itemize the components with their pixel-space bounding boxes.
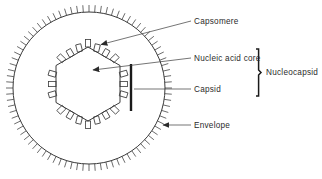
envelope-spike bbox=[145, 140, 150, 145]
envelope-spike bbox=[111, 9, 113, 16]
envelope-spike bbox=[65, 161, 67, 168]
envelope-spike bbox=[106, 162, 108, 169]
envelope-spike bbox=[122, 156, 125, 162]
envelope-spike bbox=[136, 23, 140, 28]
envelope-spike bbox=[117, 11, 120, 18]
envelope-spike bbox=[152, 41, 158, 45]
capsomere-unit bbox=[85, 40, 90, 48]
envelope-spike bbox=[7, 76, 14, 77]
envelope-spike bbox=[95, 164, 96, 171]
capsomere-unit bbox=[119, 91, 128, 98]
envelope-spike bbox=[157, 52, 163, 55]
envelope-spike bbox=[14, 52, 20, 55]
capsomere-unit bbox=[48, 70, 57, 77]
label-envelope: Envelope bbox=[194, 121, 230, 130]
envelope-spike bbox=[10, 64, 17, 66]
envelope-spike bbox=[59, 11, 62, 18]
envelope-spike bbox=[24, 135, 29, 139]
envelope-spike bbox=[162, 110, 169, 112]
capsid-hexagon bbox=[56, 47, 120, 121]
envelope-spike bbox=[37, 23, 41, 28]
envelope-spike bbox=[6, 94, 13, 95]
envelope-spike bbox=[160, 116, 167, 119]
envelope-spike bbox=[157, 121, 163, 124]
envelope-spike bbox=[127, 154, 131, 160]
capsomere-unit bbox=[119, 70, 128, 77]
envelope-spike bbox=[165, 94, 172, 95]
envelope-spike bbox=[148, 135, 153, 139]
envelope-spike bbox=[24, 36, 29, 40]
envelope-spike bbox=[83, 164, 84, 171]
envelope-spike bbox=[100, 163, 101, 170]
envelope-spike bbox=[83, 5, 84, 12]
envelope-spike bbox=[100, 6, 101, 13]
envelope-spike bbox=[77, 163, 78, 170]
envelope-spike bbox=[48, 16, 52, 22]
envelope-spike bbox=[136, 147, 140, 152]
envelope-spike bbox=[17, 126, 23, 130]
envelope-spike bbox=[37, 147, 41, 152]
capsomere-unit bbox=[49, 81, 57, 86]
leader-capsomere bbox=[101, 21, 191, 45]
label-capsomere: Capsomere bbox=[194, 17, 239, 26]
label-nucleocapsid: Nucleocapsid bbox=[266, 68, 318, 77]
envelope-spike bbox=[20, 41, 26, 45]
envelope-spikes bbox=[6, 5, 172, 171]
envelope-spike bbox=[141, 144, 146, 149]
envelope-spike bbox=[12, 116, 19, 119]
envelope-spike bbox=[8, 70, 15, 72]
envelope-spike bbox=[20, 131, 26, 135]
envelope-spike bbox=[8, 105, 15, 107]
envelope-spike bbox=[164, 76, 171, 77]
capsomere-unit bbox=[57, 105, 66, 114]
capsomere-unit bbox=[48, 91, 57, 98]
envelope-spike bbox=[42, 19, 46, 25]
envelope-spike bbox=[7, 99, 14, 100]
envelope-spike bbox=[148, 36, 153, 40]
envelope-spike bbox=[155, 47, 161, 51]
envelope-spike bbox=[163, 105, 170, 107]
capsomere-unit bbox=[120, 81, 128, 86]
envelope-spike bbox=[53, 156, 56, 162]
capsomere-unit bbox=[110, 54, 119, 63]
envelope-spike bbox=[10, 110, 17, 112]
envelope-spike bbox=[132, 151, 136, 157]
envelope-spike bbox=[28, 140, 33, 145]
envelope-spike bbox=[122, 13, 125, 19]
envelope-spike bbox=[71, 7, 73, 14]
capsomere-unit bbox=[110, 105, 119, 114]
label-nucleic-acid-core: Nucleic acid core bbox=[194, 54, 261, 63]
virus-structure-diagram: Capsomere Nucleic acid core Capsid Envel… bbox=[0, 0, 322, 179]
envelope-spike bbox=[163, 70, 170, 72]
envelope-spike bbox=[77, 6, 78, 13]
envelope-circle bbox=[13, 12, 165, 164]
envelope-spike bbox=[12, 58, 19, 61]
envelope-spike bbox=[106, 7, 108, 14]
envelope-spike bbox=[155, 126, 161, 130]
envelope-spike bbox=[160, 58, 167, 61]
capsomere-unit bbox=[57, 54, 66, 63]
envelope-spike bbox=[33, 144, 38, 149]
envelope-spike bbox=[33, 27, 38, 32]
virus-diagram-svg bbox=[0, 0, 322, 179]
envelope-spike bbox=[117, 159, 120, 166]
envelope-spike bbox=[42, 151, 46, 157]
envelope-spike bbox=[127, 16, 131, 22]
envelope-spike bbox=[132, 19, 136, 25]
capsomere-unit bbox=[85, 121, 90, 129]
envelope-spike bbox=[53, 13, 56, 19]
envelope-spike bbox=[162, 64, 169, 66]
envelope-spike bbox=[95, 5, 96, 12]
envelope-spike bbox=[152, 131, 158, 135]
envelope-spike bbox=[14, 121, 20, 124]
leader-nucleic-acid-core bbox=[93, 58, 191, 70]
capsomere-group bbox=[48, 40, 128, 129]
envelope-spike bbox=[48, 154, 52, 160]
envelope-spike bbox=[17, 47, 23, 51]
label-capsid: Capsid bbox=[194, 85, 221, 94]
envelope-spike bbox=[65, 9, 67, 16]
envelope-spike bbox=[164, 99, 171, 100]
envelope-spike bbox=[141, 27, 146, 32]
envelope-spike bbox=[71, 162, 73, 169]
envelope-spike bbox=[6, 82, 13, 83]
